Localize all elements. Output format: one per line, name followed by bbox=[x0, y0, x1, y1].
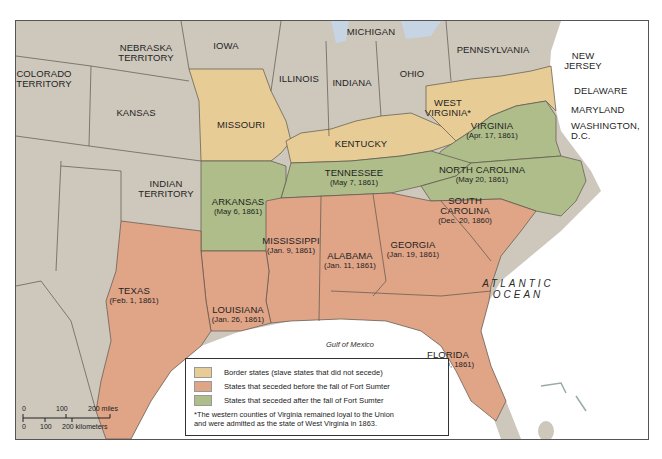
label-south-carolina: SOUTHCAROLINA(Dec. 20, 1860) bbox=[438, 196, 492, 225]
label-kansas: KANSAS bbox=[116, 108, 155, 118]
legend-item-border-states: Border states (slave states that did not… bbox=[194, 365, 448, 379]
label-maryland: MARYLAND bbox=[571, 105, 624, 115]
label-kentucky: KENTUCKY bbox=[335, 139, 388, 149]
label-nebraska-territory: NEBRASKATERRITORY bbox=[118, 43, 173, 63]
label-pennsylvania: PENNSYLVANIA bbox=[457, 45, 530, 55]
legend-swatch-after bbox=[194, 395, 212, 406]
label-west-virginia: WESTVIRGINIA* bbox=[425, 98, 471, 118]
label-atlantic-ocean: ATLANTICOCEAN bbox=[482, 279, 554, 300]
label-indiana: INDIANA bbox=[332, 78, 371, 88]
scale-bar: 0 100 200 miles 0 100 200 kilometers bbox=[18, 405, 178, 435]
label-louisiana: LOUISIANA(Jan. 26, 1861) bbox=[212, 305, 264, 324]
label-mississippi: MISSISSIPPI(Jan. 9, 1861) bbox=[262, 236, 320, 255]
label-illinois: ILLINOIS bbox=[279, 74, 319, 84]
label-virginia: VIRGINIA(Apr. 17, 1861) bbox=[466, 121, 518, 140]
label-alabama: ALABAMA(Jan. 11, 1861) bbox=[324, 251, 376, 270]
label-arkansas: ARKANSAS(May 6, 1861) bbox=[212, 197, 265, 216]
label-indian-territory: INDIANTERRITORY bbox=[138, 179, 193, 199]
label-iowa: IOWA bbox=[213, 41, 238, 51]
label-washington-dc: WASHINGTON,D.C. bbox=[571, 121, 640, 141]
scale-ruler bbox=[22, 414, 112, 422]
label-georgia: GEORGIA(Jan. 19, 1861) bbox=[387, 240, 439, 259]
legend-item-seceded-after: States that seceded after the fall of Fo… bbox=[194, 393, 448, 407]
label-colorado-territory: COLORADOTERRITORY bbox=[16, 69, 71, 89]
label-texas: TEXAS(Feb. 1, 1861) bbox=[110, 286, 159, 305]
label-tennessee: TENNESSEE(May 7, 1861) bbox=[325, 168, 383, 187]
legend-swatch-before bbox=[194, 381, 212, 392]
label-north-carolina: NORTH CAROLINA(May 20, 1861) bbox=[439, 165, 525, 184]
legend-footnote: *The western counties of Virginia remain… bbox=[194, 411, 440, 429]
legend-swatch-border bbox=[194, 367, 212, 378]
label-ohio: OHIO bbox=[400, 69, 425, 79]
label-delaware: DELAWARE bbox=[574, 86, 627, 96]
label-gulf-of-mexico: Gulf of Mexico bbox=[326, 341, 374, 349]
map-legend: Border states (slave states that did not… bbox=[185, 358, 449, 436]
legend-item-seceded-before: States that seceded before the fall of F… bbox=[194, 379, 448, 393]
label-michigan: MICHIGAN bbox=[347, 27, 395, 37]
label-missouri: MISSOURI bbox=[217, 120, 265, 130]
label-new-jersey: NEWJERSEY bbox=[564, 51, 602, 71]
